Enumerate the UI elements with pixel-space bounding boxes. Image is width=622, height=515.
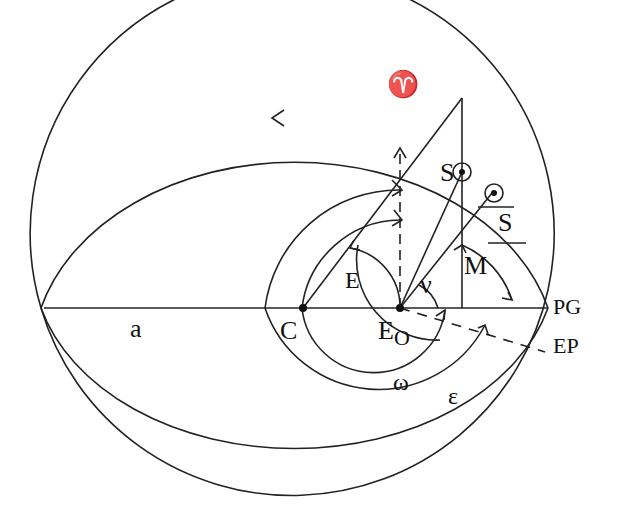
earth-point bbox=[396, 304, 404, 312]
earth-label-main: E bbox=[378, 316, 394, 345]
center-label: C bbox=[280, 318, 297, 344]
orbit-diagram: ♈ S S M E ν a C EO PG EP ω ε bbox=[0, 0, 622, 515]
semi-major-axis-label: a bbox=[130, 316, 142, 342]
aries-label: ♈ bbox=[387, 72, 419, 98]
mean-anomaly-label: M bbox=[464, 253, 487, 279]
center-point bbox=[299, 304, 307, 312]
diagram-canvas bbox=[0, 0, 622, 515]
earth-label: EO bbox=[378, 318, 410, 344]
perigee-label: PG bbox=[553, 296, 581, 318]
true-anomaly-label: ν bbox=[420, 272, 432, 298]
auxiliary-circle bbox=[30, 0, 554, 495]
mean-sun-label: S bbox=[498, 210, 512, 236]
orbit-ellipse bbox=[41, 162, 548, 308]
sun-label: S bbox=[440, 160, 454, 186]
equinox-point-label: EP bbox=[553, 335, 579, 357]
epsilon-label: ε bbox=[448, 384, 458, 408]
eccentric-anomaly-label: E bbox=[345, 268, 360, 292]
earth-label-sub: O bbox=[394, 325, 410, 350]
arg-perigee-label: ω bbox=[393, 370, 409, 394]
